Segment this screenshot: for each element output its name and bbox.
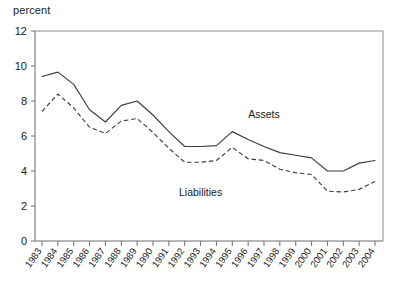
plot-frame — [35, 31, 383, 241]
x-axis-tick-label: 2001 — [308, 246, 329, 270]
x-axis-tick-label: 1983 — [23, 246, 44, 270]
x-axis-tick-label: 1995 — [213, 246, 234, 270]
x-axis-tick-label: 1999 — [276, 246, 297, 270]
x-axis-tick-label: 1987 — [86, 246, 107, 270]
series-annotation-assets: Assets — [248, 108, 280, 120]
x-axis-tick-label: 1998 — [260, 246, 281, 270]
chart-container: percent 024681012 1983198419851986198719… — [0, 0, 412, 284]
x-axis-tick-label: 1988 — [102, 246, 123, 270]
x-axis-tick-label: 1989 — [118, 246, 139, 270]
x-axis-tick-label: 1986 — [70, 246, 91, 270]
y-axis-tick-label: 8 — [21, 95, 27, 107]
series-annotations: AssetsLiabilities — [179, 108, 280, 199]
line-chart-plot: 024681012 198319841985198619871988198919… — [0, 0, 412, 284]
x-axis-ticks: 1983198419851986198719881989199019911992… — [23, 241, 377, 269]
y-axis-tick-label: 6 — [21, 130, 27, 142]
x-axis-tick-label: 1994 — [197, 246, 218, 270]
series-line-liabilities — [42, 94, 375, 192]
x-axis-tick-label: 1991 — [149, 246, 170, 270]
x-axis-tick-label: 2002 — [324, 246, 345, 270]
x-axis-tick-label: 1997 — [245, 246, 266, 270]
x-axis-tick-label: 1993 — [181, 246, 202, 270]
x-axis-tick-label: 1985 — [54, 246, 75, 270]
y-axis-tick-label: 0 — [21, 235, 27, 247]
series-line-assets — [42, 72, 375, 171]
x-axis-tick-label: 1992 — [165, 246, 186, 270]
x-axis-tick-label: 1990 — [134, 246, 155, 270]
y-axis-tick-label: 4 — [21, 165, 27, 177]
data-series-group — [42, 72, 375, 192]
y-axis-tick-label: 12 — [15, 25, 27, 37]
y-axis-tick-label: 2 — [21, 200, 27, 212]
y-axis-ticks: 024681012 — [15, 25, 35, 247]
x-axis-tick-label: 1984 — [38, 246, 59, 270]
x-axis-tick-label: 2003 — [340, 246, 361, 270]
x-axis-tick-label: 2000 — [292, 246, 313, 270]
x-axis-tick-label: 1996 — [229, 246, 250, 270]
x-axis-tick-label: 2004 — [356, 246, 377, 270]
series-annotation-liabilities: Liabilities — [179, 186, 222, 198]
y-axis-tick-label: 10 — [15, 60, 27, 72]
